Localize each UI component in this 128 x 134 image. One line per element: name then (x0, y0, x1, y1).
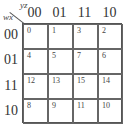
row-header: 01 (0, 52, 22, 68)
row-header: 00 (0, 27, 22, 43)
minterm-index: 8 (27, 101, 31, 110)
minterm-index: 13 (52, 76, 60, 85)
minterm-index: 6 (102, 51, 106, 60)
kmap-cell: 7 (73, 49, 98, 74)
kmap-cell: 14 (98, 74, 123, 99)
kmap-cell: 4 (23, 49, 48, 74)
kmap-grid: 0 1 3 2 4 5 7 6 12 13 15 14 8 9 11 10 (22, 23, 122, 123)
minterm-index: 0 (27, 26, 31, 35)
kmap-cell: 8 (23, 99, 48, 124)
row-variable-label: wx (3, 12, 13, 22)
kmap-cell: 3 (73, 24, 98, 49)
minterm-index: 9 (52, 101, 56, 110)
minterm-index: 11 (77, 101, 85, 110)
minterm-index: 4 (27, 51, 31, 60)
column-header: 10 (97, 5, 122, 21)
column-header: 11 (72, 5, 97, 21)
kmap-cell: 0 (23, 24, 48, 49)
kmap-cell: 6 (98, 49, 123, 74)
kmap-cell: 2 (98, 24, 123, 49)
row-header: 10 (0, 103, 22, 119)
kmap-cell: 15 (73, 74, 98, 99)
column-header: 00 (22, 5, 47, 21)
minterm-index: 7 (77, 51, 81, 60)
kmap-cell: 1 (48, 24, 73, 49)
kmap-cell: 5 (48, 49, 73, 74)
minterm-index: 15 (77, 76, 85, 85)
kmap-cell: 11 (73, 99, 98, 124)
kmap-cell: 9 (48, 99, 73, 124)
minterm-index: 10 (102, 101, 110, 110)
kmap-cell: 10 (98, 99, 123, 124)
minterm-index: 5 (52, 51, 56, 60)
row-header: 11 (0, 78, 22, 94)
minterm-index: 2 (102, 26, 106, 35)
minterm-index: 12 (27, 76, 35, 85)
minterm-index: 14 (102, 76, 110, 85)
kmap-cell: 12 (23, 74, 48, 99)
column-header: 01 (47, 5, 72, 21)
kmap-cell: 13 (48, 74, 73, 99)
minterm-index: 3 (77, 26, 81, 35)
minterm-index: 1 (52, 26, 56, 35)
